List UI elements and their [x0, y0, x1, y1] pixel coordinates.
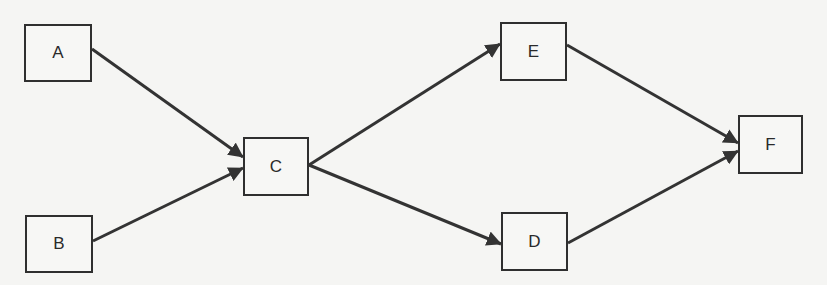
node-label: B	[53, 234, 64, 254]
node-label: E	[528, 42, 539, 62]
diagram-canvas: ABCEDF	[0, 0, 827, 285]
edges-layer	[0, 0, 827, 285]
node-b: B	[25, 215, 93, 273]
node-a: A	[24, 24, 92, 82]
arrow-c-to-e	[309, 44, 500, 165]
node-f: F	[738, 115, 803, 174]
node-label: A	[52, 43, 63, 63]
arrow-c-to-d	[309, 165, 501, 244]
node-d: D	[501, 212, 568, 271]
node-c: C	[243, 137, 309, 196]
node-label: D	[528, 232, 540, 252]
node-label: C	[270, 157, 282, 177]
node-label: F	[765, 135, 775, 155]
node-e: E	[500, 22, 567, 81]
arrow-d-to-f	[568, 151, 738, 243]
arrow-a-to-c	[92, 49, 243, 157]
arrow-e-to-f	[567, 45, 738, 143]
arrow-b-to-c	[93, 168, 243, 241]
